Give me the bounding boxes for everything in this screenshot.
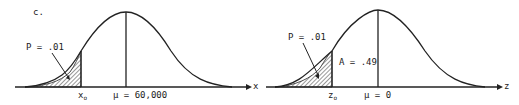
right-a-label: A = .49 [339, 58, 377, 67]
right-axis-label: z [504, 82, 509, 91]
left-x0-label: xo [78, 91, 87, 101]
left-mu-label: μ = 60,000 [113, 91, 167, 100]
right-z0-label: zo [328, 91, 337, 101]
right-normal-curve [266, 10, 503, 90]
x0-sub: o [83, 94, 87, 101]
panel-label: c. [33, 8, 44, 17]
left-axis-label: x [253, 82, 258, 91]
right-mu-label: μ = 0 [364, 91, 391, 100]
left-p-label: P = .01 [26, 43, 64, 52]
z0-sub: o [333, 94, 337, 101]
right-p-label: P = .01 [288, 33, 326, 42]
